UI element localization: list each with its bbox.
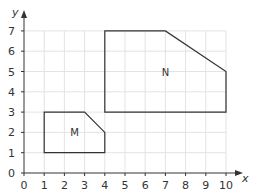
x-axis-label: x bbox=[241, 172, 249, 185]
y-axis-ticks: 01234567 bbox=[8, 25, 24, 180]
x-tick-label: 1 bbox=[41, 179, 48, 192]
y-tick-label: 0 bbox=[8, 167, 15, 180]
shape-label: M bbox=[70, 127, 79, 138]
x-tick-label: 4 bbox=[101, 179, 108, 192]
y-axis-label: y bbox=[11, 6, 19, 19]
x-tick-label: 3 bbox=[81, 179, 88, 192]
y-tick-label: 4 bbox=[8, 86, 15, 99]
y-tick-label: 3 bbox=[8, 106, 15, 119]
x-axis-ticks: 012345678910 bbox=[21, 173, 234, 192]
y-tick-label: 1 bbox=[8, 147, 15, 160]
x-tick-label: 7 bbox=[162, 179, 169, 192]
x-tick-label: 8 bbox=[182, 179, 189, 192]
y-tick-label: 5 bbox=[8, 66, 15, 79]
x-tick-label: 2 bbox=[61, 179, 68, 192]
axes bbox=[21, 10, 243, 176]
x-tick-label: 0 bbox=[21, 179, 28, 192]
coordinate-grid-diagram: 012345678910 01234567 MN x y bbox=[0, 0, 253, 194]
y-tick-label: 6 bbox=[8, 45, 15, 58]
y-axis-arrow-icon bbox=[21, 10, 27, 18]
y-tick-label: 7 bbox=[8, 25, 15, 38]
x-tick-label: 9 bbox=[202, 179, 209, 192]
x-tick-label: 10 bbox=[219, 179, 233, 192]
x-tick-label: 6 bbox=[142, 179, 149, 192]
gridlines bbox=[24, 31, 226, 173]
y-tick-label: 2 bbox=[8, 126, 15, 139]
shape-label: N bbox=[162, 67, 169, 78]
x-tick-label: 5 bbox=[122, 179, 129, 192]
